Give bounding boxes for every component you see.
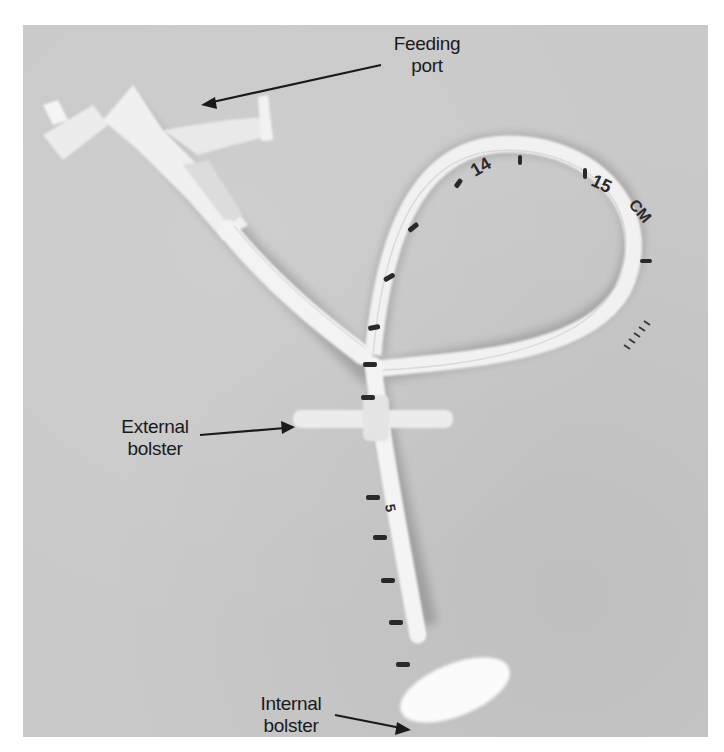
label-feeding-port-line2: port: [381, 55, 473, 77]
feeding-port-arrowhead: [201, 97, 217, 109]
label-feeding-port: Feeding port: [381, 33, 473, 77]
tube-fine-markings: [624, 321, 650, 349]
feeding-tube-illustration: 14 15 CM 5: [23, 25, 708, 737]
external-bolster-arrowhead: [281, 421, 295, 434]
label-feeding-port-line1: Feeding: [381, 33, 473, 55]
tube-numbers: 14 15 CM 5: [382, 153, 655, 513]
internal-bolster-arrowhead: [395, 722, 411, 735]
label-external-bolster-line1: External: [111, 416, 199, 438]
label-internal-bolster: Internal bolster: [248, 693, 334, 737]
upper-tube: [228, 230, 363, 355]
label-external-bolster-line2: bolster: [111, 438, 199, 460]
label-external-bolster: External bolster: [111, 416, 199, 460]
device-photo: 14 15 CM 5 Feeding port External bolster…: [23, 25, 708, 737]
internal-bolster-disc: [391, 644, 518, 736]
feeding-port-hub: [43, 85, 273, 240]
label-internal-bolster-line2: bolster: [248, 715, 334, 737]
label-internal-bolster-line1: Internal: [248, 693, 334, 715]
